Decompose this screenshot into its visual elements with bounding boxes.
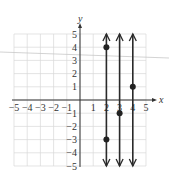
y-tick-label: −3 — [66, 134, 77, 145]
x-tick-label: 1 — [91, 102, 96, 113]
y-tick-label: 1 — [72, 81, 77, 92]
y-tick-label: −2 — [66, 121, 77, 132]
y-tick-label: −1 — [66, 108, 77, 119]
y-tick-label: 4 — [72, 42, 77, 53]
data-point — [103, 44, 109, 50]
chart: −5−4−3−2−11234554321−1−2−3−4−5 x y — [0, 0, 169, 180]
data-point — [103, 137, 109, 143]
data-point — [130, 84, 136, 90]
x-tick-label: −2 — [48, 102, 59, 113]
x-tick-label: −4 — [22, 102, 33, 113]
x-tick-label: −5 — [9, 102, 20, 113]
y-tick-label: 5 — [72, 29, 77, 40]
x-axis-label: x — [158, 94, 164, 105]
y-tick-label: −5 — [66, 161, 77, 172]
x-axis-arrow-icon — [152, 98, 157, 102]
axes — [12, 23, 157, 167]
x-tick-label: −3 — [35, 102, 46, 113]
y-tick-label: −4 — [66, 147, 77, 158]
y-tick-label: 2 — [72, 68, 77, 79]
y-tick-label: 3 — [72, 55, 77, 66]
x-tick-label: 5 — [144, 102, 149, 113]
data-point — [117, 110, 123, 116]
scan-artifact-line — [0, 52, 169, 58]
y-axis-label: y — [77, 13, 83, 24]
